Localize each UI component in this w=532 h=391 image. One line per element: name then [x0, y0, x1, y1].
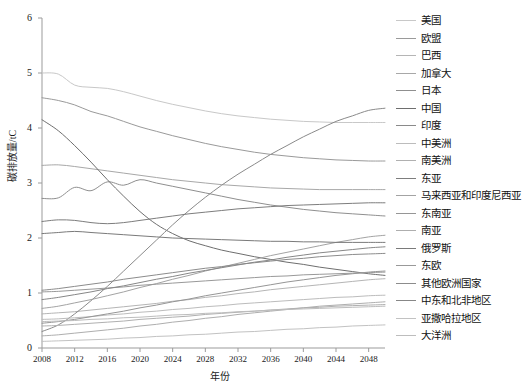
legend-item[interactable]: 欧盟: [396, 30, 532, 48]
legend-color-swatch: [396, 55, 416, 56]
legend-item[interactable]: 巴西: [396, 47, 532, 65]
legend-item-label: 亚撒哈拉地区: [421, 313, 481, 324]
legend-item-label: 中国: [421, 103, 441, 114]
plot-area: 0123456 20082012201620202024202820322036…: [0, 0, 400, 391]
legend-item-label: 其他欧洲国家: [421, 278, 481, 289]
legend-color-swatch: [396, 178, 416, 179]
x-tick-label: 2044: [319, 355, 353, 364]
chart-root: 0123456 20082012201620202024202820322036…: [0, 0, 532, 391]
y-tick-label: 1: [14, 288, 32, 298]
x-tick-label: 2020: [123, 355, 157, 364]
series-line: [42, 231, 385, 242]
legend-item-label: 中美洲: [421, 138, 451, 149]
legend-item[interactable]: 南美洲: [396, 152, 532, 170]
legend-item[interactable]: 中美洲: [396, 135, 532, 153]
legend-color-swatch: [396, 20, 416, 21]
series-line: [42, 272, 385, 292]
y-tick-label: 0: [14, 343, 32, 353]
x-axis-title: 年份: [150, 368, 290, 383]
x-tick-label: 2024: [156, 355, 190, 364]
legend-item-label: 东亚: [421, 173, 441, 184]
series-line: [42, 203, 385, 224]
series-line: [42, 253, 385, 290]
legend-color-swatch: [396, 108, 416, 109]
legend-item-label: 大洋洲: [421, 330, 451, 341]
legend-item[interactable]: 大洋洲: [396, 327, 532, 345]
legend-item[interactable]: 东欧: [396, 257, 532, 275]
legend-item[interactable]: 中国: [396, 100, 532, 118]
x-tick-label: 2028: [188, 355, 222, 364]
legend-item[interactable]: 东南亚: [396, 205, 532, 223]
x-tick-label: 2040: [286, 355, 320, 364]
legend-item-label: 巴西: [421, 50, 441, 61]
x-tick-label: 2032: [221, 355, 255, 364]
legend-color-swatch: [396, 300, 416, 301]
legend-item-label: 东南亚: [421, 208, 451, 219]
legend-item-label: 日本: [421, 85, 441, 96]
series-line: [42, 247, 385, 300]
legend-color-swatch: [396, 73, 416, 74]
x-tick-label: 2036: [254, 355, 288, 364]
legend-item-label: 马来西亚和印度尼西亚: [421, 190, 521, 201]
legend-item[interactable]: 南亚: [396, 222, 532, 240]
legend-item[interactable]: 美国: [396, 12, 532, 30]
series-line: [42, 73, 385, 123]
legend-color-swatch: [396, 195, 416, 196]
legend-item-label: 欧盟: [421, 33, 441, 44]
legend-color-swatch: [396, 143, 416, 144]
legend-item[interactable]: 其他欧洲国家: [396, 275, 532, 293]
legend-item-label: 南亚: [421, 225, 441, 236]
legend-item[interactable]: 马来西亚和印度尼西亚: [396, 187, 532, 205]
legend-item-label: 俄罗斯: [421, 243, 451, 254]
legend-color-swatch: [396, 160, 416, 161]
series-line: [42, 120, 385, 276]
legend-color-swatch: [396, 90, 416, 91]
series-line: [42, 98, 385, 161]
series-line: [42, 165, 385, 190]
legend-item-label: 美国: [421, 15, 441, 26]
legend-color-swatch: [396, 318, 416, 319]
legend-color-swatch: [396, 248, 416, 249]
legend-color-swatch: [396, 230, 416, 231]
series-line: [42, 325, 385, 342]
y-axis-title: 碳排放量/tC: [7, 121, 19, 191]
legend-item[interactable]: 中东和北非地区: [396, 292, 532, 310]
legend-item[interactable]: 亚撒哈拉地区: [396, 310, 532, 328]
x-tick-label: 2016: [90, 355, 124, 364]
chart-legend: 美国欧盟巴西加拿大日本中国印度中美洲南美洲东亚马来西亚和印度尼西亚东南亚南亚俄罗…: [396, 12, 532, 345]
legend-item[interactable]: 加拿大: [396, 65, 532, 83]
legend-item-label: 印度: [421, 120, 441, 131]
x-tick-label: 2012: [58, 355, 92, 364]
legend-color-swatch: [396, 38, 416, 39]
legend-item-label: 中东和北非地区: [421, 295, 491, 306]
legend-item-label: 南美洲: [421, 155, 451, 166]
y-tick-label: 6: [14, 13, 32, 23]
legend-color-swatch: [396, 213, 416, 214]
legend-item-label: 东欧: [421, 260, 441, 271]
legend-item[interactable]: 东亚: [396, 170, 532, 188]
x-tick-label: 2048: [352, 355, 386, 364]
legend-color-swatch: [396, 335, 416, 336]
x-tick-label: 2008: [25, 355, 59, 364]
y-tick-label: 5: [14, 68, 32, 78]
y-tick-label: 2: [14, 233, 32, 243]
legend-color-swatch: [396, 125, 416, 126]
chart-series-lines: [0, 0, 400, 391]
legend-item[interactable]: 印度: [396, 117, 532, 135]
legend-color-swatch: [396, 283, 416, 284]
legend-item[interactable]: 俄罗斯: [396, 240, 532, 258]
legend-item-label: 加拿大: [421, 68, 451, 79]
legend-item[interactable]: 日本: [396, 82, 532, 100]
legend-color-swatch: [396, 265, 416, 266]
series-line: [42, 180, 385, 216]
